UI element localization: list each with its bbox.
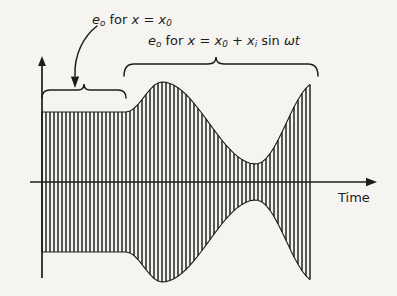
label-eo-modulated: eo for x = x0 + xi sin ωt xyxy=(148,33,300,49)
pointer-arrow-icon xyxy=(71,26,97,88)
carrier-brace xyxy=(42,84,126,98)
time-axis-label: Time xyxy=(338,190,370,205)
label-eo-static: eo for x = x0 xyxy=(92,12,172,28)
modulated-brace xyxy=(124,57,318,76)
waveform-figure: eo for x = x0 eo for x = x0 + xi sin ωt … xyxy=(0,0,397,296)
